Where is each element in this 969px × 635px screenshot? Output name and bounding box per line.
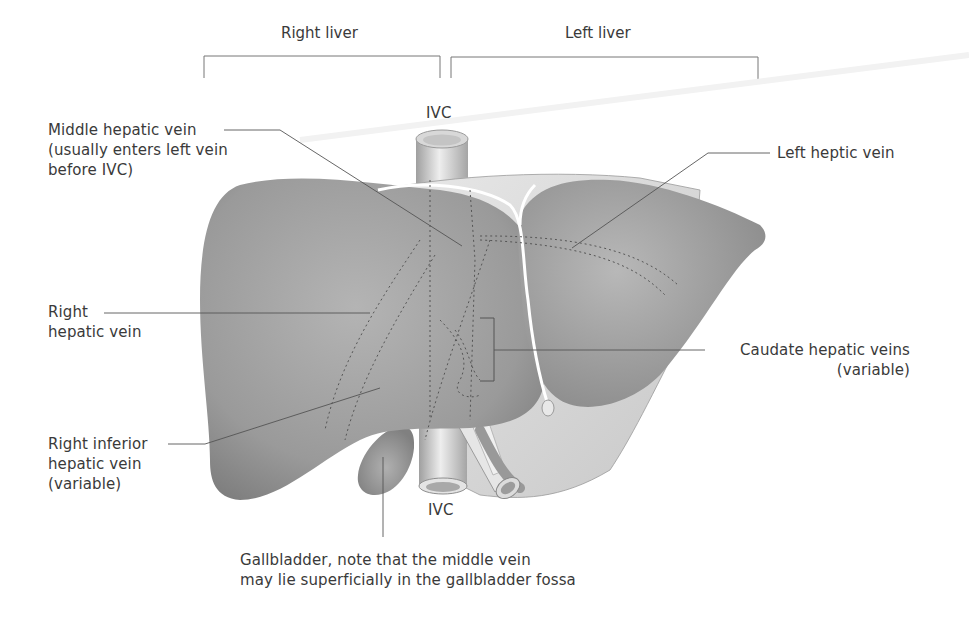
right-inferior-hepatic-vein-label: Right inferior hepatic vein (variable) [48,434,148,494]
right-liver-header: Right liver [281,24,358,42]
left-hepatic-vein-label: Left heptic vein [777,143,895,163]
middle-hepatic-vein-label: Middle hepatic vein (usually enters left… [48,120,228,180]
liver-diagram [0,0,969,635]
left-liver-header: Left liver [565,24,631,42]
ivc-bottom-label: IVC [428,500,453,520]
right-hepatic-vein-label: Right hepatic vein [48,302,142,342]
left-liver-bracket [451,57,758,80]
caudate-hepatic-veins-label: Caudate hepatic veins (variable) [700,340,910,380]
ivc-top-label: IVC [426,103,451,123]
right-liver-bracket [204,56,440,78]
gallbladder-label: Gallbladder, note that the middle vein m… [240,550,576,590]
ivc-bottom-vessel [419,420,467,494]
